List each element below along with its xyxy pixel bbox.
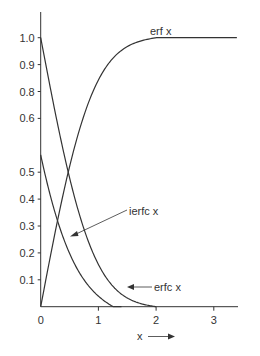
y-tick-label: 0.2 bbox=[19, 247, 34, 259]
x-tick-label: 1 bbox=[95, 314, 101, 326]
erf-x-curve bbox=[41, 38, 237, 307]
erf-label: erf x bbox=[150, 25, 172, 37]
x-tick-label: 3 bbox=[211, 314, 217, 326]
x-axis-arrow-head bbox=[168, 334, 175, 340]
y-tick-label: 0.3 bbox=[19, 220, 34, 232]
y-tick-label: 0.1 bbox=[19, 274, 34, 286]
ierfc-label: ierfc x bbox=[129, 205, 159, 217]
ierfc-x-curve bbox=[41, 155, 122, 307]
y-tick-label: 0.8 bbox=[19, 86, 34, 98]
y-tick-label: 1.0 bbox=[19, 32, 34, 44]
x-axis-ticks: 0123 bbox=[38, 307, 217, 326]
x-axis-label: x bbox=[137, 330, 143, 342]
x-tick-label: 0 bbox=[38, 314, 44, 326]
curves bbox=[41, 38, 237, 307]
erfc-arrow-head bbox=[127, 284, 134, 290]
y-tick-label: 0.6 bbox=[19, 112, 34, 124]
y-tick-label: 0.5 bbox=[19, 166, 34, 178]
erfc-label: erfc x bbox=[154, 281, 181, 293]
y-tick-label: 0.4 bbox=[19, 193, 34, 205]
erf-erfc-ierfc-chart: 0.10.20.30.40.50.60.80.91.0 0123 erf x i… bbox=[0, 0, 260, 356]
y-axis-ticks: 0.10.20.30.40.50.60.80.91.0 bbox=[19, 32, 40, 286]
x-tick-label: 2 bbox=[153, 314, 159, 326]
y-tick-label: 0.9 bbox=[19, 59, 34, 71]
ierfc-arrow-head bbox=[70, 231, 79, 237]
erfc-x-curve bbox=[41, 38, 156, 307]
